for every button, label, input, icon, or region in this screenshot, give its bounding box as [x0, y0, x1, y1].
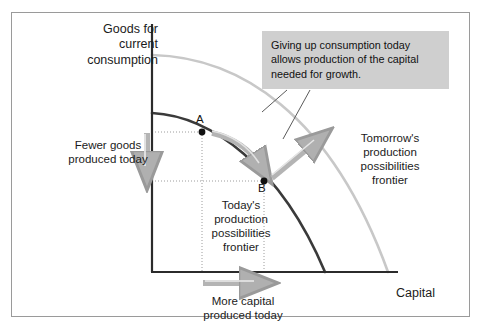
y-axis-label: Goods for current consumption — [46, 22, 158, 68]
fewer-goods-label: Fewer goods produced today — [57, 138, 159, 166]
point-b-label: B — [258, 182, 266, 194]
figure-container: Goods for current consumption Capital Fe… — [0, 0, 482, 332]
callout-box: Giving up consumption today allows produ… — [262, 31, 449, 89]
tomorrow-frontier-label: Tomorrow's production possibilities fron… — [338, 131, 442, 187]
today-frontier-label: Today's production possibilities frontie… — [198, 198, 284, 254]
point-a-label: A — [196, 113, 204, 125]
x-axis-label: Capital — [396, 286, 435, 301]
more-capital-label: More capital produced today — [181, 294, 305, 322]
